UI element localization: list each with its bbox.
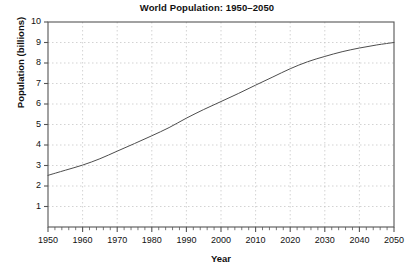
y-tick-label: 8 — [17, 57, 41, 67]
plot-area — [0, 0, 414, 271]
y-tick-label: 6 — [17, 98, 41, 108]
x-tick-label: 2050 — [374, 235, 414, 245]
y-axis-ticks — [44, 22, 48, 207]
y-tick-label: 4 — [17, 139, 41, 149]
x-axis-major-ticks — [48, 227, 394, 232]
y-tick-label: 3 — [17, 160, 41, 170]
y-tick-label: 10 — [17, 16, 41, 26]
chart-container: World Population: 1950–2050 Population (… — [0, 0, 414, 271]
y-tick-label: 5 — [17, 119, 41, 129]
y-tick-label: 2 — [17, 180, 41, 190]
y-tick-label: 9 — [17, 37, 41, 47]
y-tick-label: 1 — [17, 201, 41, 211]
y-tick-label: 7 — [17, 78, 41, 88]
